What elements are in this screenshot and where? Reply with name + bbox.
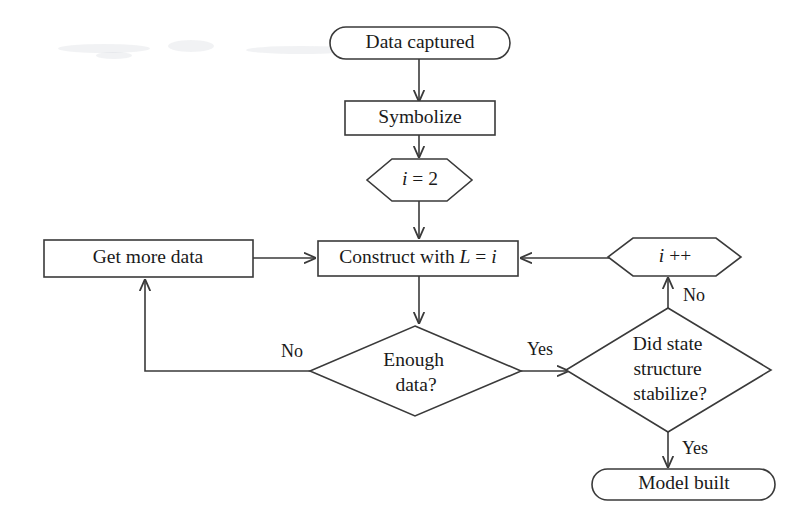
flowchart-canvas: Data captured Symbolize i = 2 Get more d… xyxy=(0,0,802,523)
node-init-label: i = 2 xyxy=(402,168,438,189)
node-stabilize-line1: Did state xyxy=(633,333,703,354)
edge-label-stabilize-no: No xyxy=(683,285,705,305)
node-construct-var-l: L xyxy=(459,246,471,267)
node-getmoredata-label: Get more data xyxy=(93,246,204,267)
node-construct-var-i: i xyxy=(491,246,496,267)
node-symbolize-label: Symbolize xyxy=(378,106,461,127)
node-stabilize-line2: structure xyxy=(633,358,701,379)
node-stabilize-line3: stabilize? xyxy=(633,383,707,404)
node-increment-op: ++ xyxy=(664,245,691,266)
node-enoughdata-line1: Enough xyxy=(383,349,444,370)
node-stabilize-label: Did state structure stabilize? xyxy=(633,333,708,404)
node-enoughdata-shape xyxy=(310,326,521,416)
node-construct-text: Construct with xyxy=(339,246,459,267)
node-start-label: Data captured xyxy=(366,31,475,52)
node-end-label: Model built xyxy=(638,472,730,493)
edge-label-enough-yes: Yes xyxy=(527,339,553,359)
node-construct-label: Construct with L = i xyxy=(339,246,496,267)
node-construct-eq: = xyxy=(470,246,491,267)
node-enoughdata-line2: data? xyxy=(395,374,436,395)
node-increment-label: i ++ xyxy=(659,245,691,266)
node-init-value: = 2 xyxy=(407,168,438,189)
flowchart-graphics: Data captured Symbolize i = 2 Get more d… xyxy=(0,0,802,523)
edge-label-enough-no: No xyxy=(281,341,303,361)
edge-label-stabilize-yes: Yes xyxy=(682,438,708,458)
